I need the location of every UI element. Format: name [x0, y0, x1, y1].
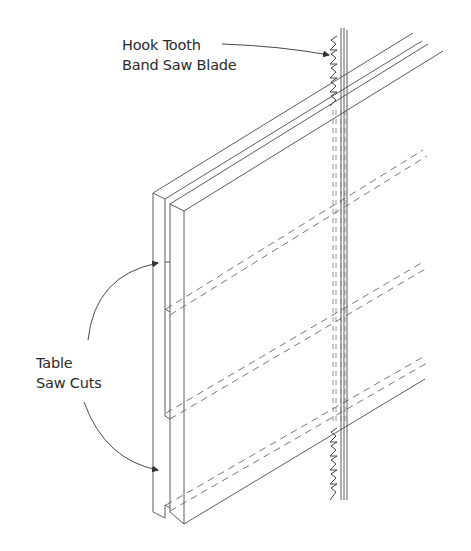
- board-right-piece: [170, 44, 443, 524]
- table-saw-kerf-upper: [165, 262, 170, 312]
- upper-cut-leader-arrow: [88, 263, 158, 340]
- hidden-cut-lines: [166, 150, 427, 511]
- diagram-canvas: Hook Tooth Band Saw Blade Table Saw Cuts: [0, 0, 471, 551]
- band-saw-blade: [330, 28, 347, 500]
- table-saw-kerf-lower: [165, 416, 170, 508]
- lower-cut-leader-arrow: [84, 402, 158, 470]
- board-left-piece: [153, 33, 422, 518]
- blade-leader-arrow: [222, 44, 329, 55]
- hidden-blade: [333, 110, 345, 425]
- leader-lines: [84, 44, 329, 470]
